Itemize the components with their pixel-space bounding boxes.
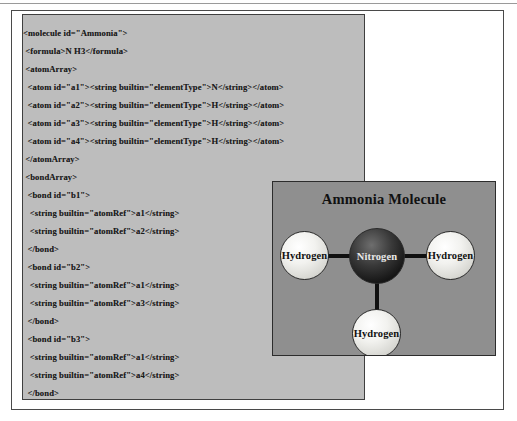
xml-code-line: <molecule id="Ammonia"> xyxy=(23,24,364,42)
xml-code-line: </atomArray> xyxy=(23,150,364,168)
molecule-diagram-panel: Ammonia Molecule Hydrogen Nitrogen Hydro… xyxy=(272,181,496,356)
atom-label: Hydrogen xyxy=(282,250,328,261)
xml-code-line: <atom id="a2"><string builtin="elementTy… xyxy=(23,96,364,114)
atom-nitrogen-center: Nitrogen xyxy=(349,228,405,284)
xml-code-line: <atom id="a1"><string builtin="elementTy… xyxy=(23,78,364,96)
molecule-diagram-title: Ammonia Molecule xyxy=(273,191,495,208)
atom-label: Nitrogen xyxy=(357,251,397,262)
atom-hydrogen-right: Hydrogen xyxy=(426,231,475,280)
xml-code-line: <atom id="a3"><string builtin="elementTy… xyxy=(23,114,364,132)
xml-code-line: <atom id="a4"><string builtin="elementTy… xyxy=(23,132,364,150)
xml-code-line: <atomArray> xyxy=(23,60,364,78)
top-divider-rule xyxy=(0,3,517,4)
xml-code-line: </bond> xyxy=(23,384,364,400)
xml-code-line: <formula>N H3</formula> xyxy=(23,42,364,60)
atom-label: Hydrogen xyxy=(428,250,474,261)
atom-label: Hydrogen xyxy=(354,328,400,339)
atom-hydrogen-left: Hydrogen xyxy=(280,231,329,280)
xml-code-line: <string builtin="atomRef">a4</string> xyxy=(23,366,364,384)
atom-hydrogen-bottom: Hydrogen xyxy=(352,309,401,356)
